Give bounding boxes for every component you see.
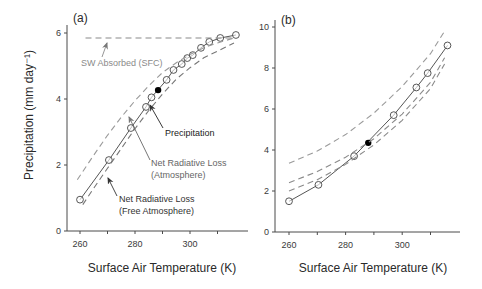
series-lower-dashed: [289, 64, 445, 191]
data-point: [163, 76, 170, 83]
x-tick-label: 300: [395, 240, 410, 250]
annotation-arrow: [102, 43, 107, 57]
figure: 2602803000246(a)SW Absorbed (SFC)Precipi…: [0, 0, 482, 289]
annotation-label: (Atmosphere): [151, 170, 206, 180]
panel-b: 2602803000246810(b): [259, 13, 460, 250]
annotation-label: Net Radiative Loss: [151, 158, 227, 168]
data-point: [315, 181, 322, 188]
x-tick-label: 260: [281, 240, 296, 250]
annotation-label: SW Absorbed (SFC): [81, 58, 163, 68]
series-middle-dashed: [289, 58, 445, 183]
data-point: [233, 32, 240, 39]
data-point: [424, 70, 431, 77]
annotation-label: Precipitation: [165, 128, 215, 138]
y-tick-label: 10: [259, 22, 269, 32]
annotation-arrow: [150, 105, 163, 128]
data-point: [178, 61, 185, 68]
y-tick-label: 2: [56, 160, 61, 170]
x-tick-label: 280: [127, 239, 142, 249]
y-axis-title: Precipitation (mm day⁻¹): [22, 50, 36, 180]
data-point: [170, 67, 177, 74]
chart-canvas: 2602803000246(a)SW Absorbed (SFC)Precipi…: [0, 0, 482, 289]
control-point: [155, 87, 161, 93]
annotation-label: Net Radiative Loss: [119, 194, 195, 204]
x-tick-label: 260: [72, 239, 87, 249]
data-point: [148, 94, 155, 101]
y-tick-label: 6: [264, 104, 269, 114]
panel-label: (b): [281, 13, 296, 27]
annotation-label: (Free Atmosphere): [119, 206, 194, 216]
data-point: [413, 84, 420, 91]
data-point: [390, 112, 397, 119]
y-tick-label: 2: [264, 186, 269, 196]
x-axis-title-a: Surface Air Temperature (K): [88, 261, 237, 275]
y-tick-label: 0: [56, 226, 61, 236]
y-tick-label: 4: [56, 94, 61, 104]
data-point: [143, 104, 150, 111]
panel-a: 2602803000246(a)SW Absorbed (SFC)Precipi…: [56, 11, 248, 249]
x-axis-title-b: Surface Air Temperature (K): [299, 261, 448, 275]
y-tick-label: 6: [56, 28, 61, 38]
y-tick-label: 0: [264, 227, 269, 237]
data-point: [444, 42, 451, 49]
annotation-arrow: [108, 178, 117, 196]
data-point: [77, 196, 84, 203]
data-point: [286, 198, 293, 205]
series-precipitation: [289, 46, 448, 202]
x-tick-label: 300: [182, 239, 197, 249]
panel-label: (a): [73, 11, 88, 25]
y-tick-label: 4: [264, 145, 269, 155]
y-tick-label: 8: [264, 63, 269, 73]
annotation-arrow: [129, 117, 150, 160]
x-tick-label: 280: [338, 240, 353, 250]
data-point: [206, 39, 213, 46]
